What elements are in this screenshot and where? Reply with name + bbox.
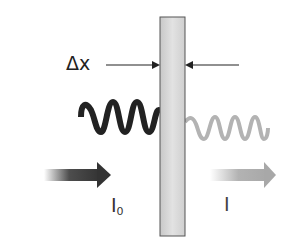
thickness-label: Δx: [66, 52, 90, 74]
incident-intensity-subscript: 0: [117, 205, 124, 218]
attenuation-diagram: Δx I0 I: [0, 0, 286, 247]
slab: [160, 17, 185, 236]
transmitted-wave: [185, 117, 268, 139]
incident-intensity-label: I0: [111, 194, 124, 223]
transmitted-intensity-label: I: [224, 193, 230, 215]
incident-wave: [81, 102, 161, 132]
incident-arrow-icon: [44, 162, 111, 188]
transmitted-arrow-icon: [210, 162, 276, 188]
